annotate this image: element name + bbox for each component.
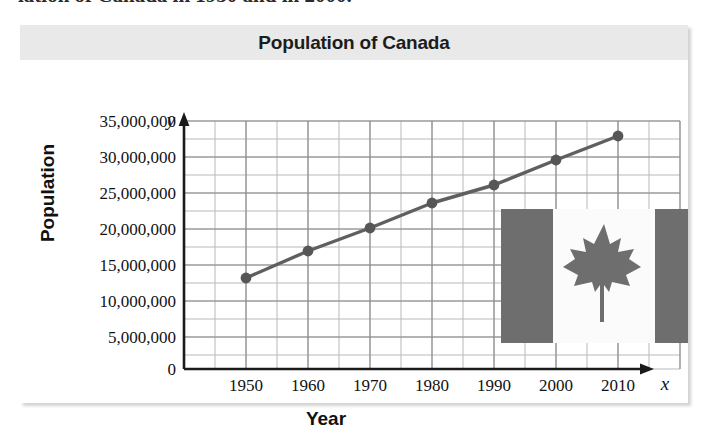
x-tick-1990: 1990 (477, 376, 511, 395)
y-tick-15m: 15,000,000 (100, 256, 177, 275)
x-tick-1950: 1950 (229, 376, 263, 395)
y-tick-5m: 5,000,000 (108, 328, 176, 347)
x-tick-2000: 2000 (539, 376, 573, 395)
canadian-flag (501, 209, 688, 343)
data-point-1990 (489, 180, 500, 191)
y-tick-25m: 25,000,000 (100, 184, 177, 203)
y-axis-arrow-icon (179, 112, 190, 126)
figure-card: Population of Canada Population Year (20, 25, 688, 403)
population-line-chart: 0 5,000,000 10,000,000 15,000,000 20,000… (20, 60, 688, 403)
x-tick-labels: 1950 1960 1970 1980 1990 2000 2010 (229, 376, 635, 395)
page-caption-strip: lation of Canada in 1950 and in 2000. (0, 0, 708, 16)
x-tick-1970: 1970 (353, 376, 387, 395)
y-tick-10m: 10,000,000 (100, 292, 177, 311)
x-axis-title: Year (20, 408, 632, 429)
data-point-1970 (365, 223, 376, 234)
data-point-1980 (427, 198, 438, 209)
data-point-2000 (551, 155, 562, 166)
x-axis-variable-label: x (660, 373, 670, 394)
caption-text: lation of Canada in 1950 and in 2000. (18, 0, 352, 8)
x-tick-1960: 1960 (291, 376, 325, 395)
x-tick-1980: 1980 (415, 376, 449, 395)
data-point-1950 (241, 273, 252, 284)
x-axis-arrow-icon (640, 364, 654, 375)
y-tick-0: 0 (168, 360, 177, 379)
y-axis-variable-label: y (165, 109, 176, 130)
x-tick-2010: 2010 (601, 376, 635, 395)
y-tick-30m: 30,000,000 (100, 148, 177, 167)
chart-title: Population of Canada (20, 25, 688, 60)
plot-body: Population Year (20, 60, 688, 403)
y-tick-35m: 35,000,000 (100, 112, 177, 131)
data-point-2010 (613, 131, 624, 142)
y-tick-labels: 0 5,000,000 10,000,000 15,000,000 20,000… (100, 112, 177, 379)
y-tick-20m: 20,000,000 (100, 220, 177, 239)
data-point-1960 (303, 246, 314, 257)
